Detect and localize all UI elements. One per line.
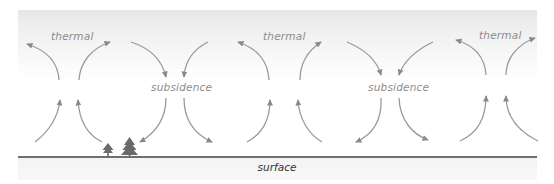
thermal-1-arrows xyxy=(27,42,110,142)
thermal-label-1: thermal xyxy=(51,30,94,42)
subsidence-label-1: subsidence xyxy=(151,81,212,93)
tree-large-icon xyxy=(121,137,138,158)
thermal-3-arrows xyxy=(456,38,538,141)
subsidence-label-2: subsidence xyxy=(368,81,429,93)
thermal-2-arrows xyxy=(238,42,322,142)
convection-arrows xyxy=(0,0,554,184)
thermal-label-3: thermal xyxy=(479,29,522,41)
surface-label: surface xyxy=(0,161,554,173)
tree-small-icon xyxy=(103,143,114,157)
thermal-label-2: thermal xyxy=(263,30,306,42)
